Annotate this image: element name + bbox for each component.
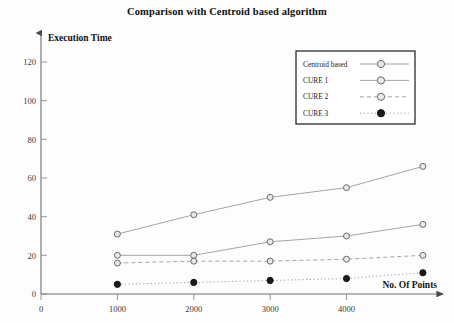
data-point <box>191 258 197 264</box>
x-tick-label: 4000 <box>338 304 355 314</box>
y-tick-label: 60 <box>28 173 37 183</box>
data-point <box>343 275 349 281</box>
data-point <box>191 252 197 258</box>
legend-label: Centroid based <box>303 60 348 69</box>
data-point <box>114 231 120 237</box>
x-tick-label: 0 <box>39 304 43 314</box>
data-point <box>344 185 350 191</box>
data-point <box>191 279 197 285</box>
y-axis-ticks <box>41 62 47 294</box>
x-tick-label: 1000 <box>109 304 126 314</box>
data-point <box>344 256 350 262</box>
data-point <box>344 233 350 239</box>
data-point <box>267 277 273 283</box>
legend-marker <box>377 60 384 67</box>
data-point <box>267 258 273 264</box>
legend-label: CURE 1 <box>303 76 329 85</box>
y-axis-tick-labels: 0 20 40 60 80 100 120 <box>23 57 36 299</box>
series-4 <box>114 270 426 288</box>
data-point <box>420 163 426 169</box>
y-tick-label: 40 <box>28 212 37 222</box>
data-point <box>420 270 426 276</box>
chart-legend: Centroid basedCURE 1CURE 2CURE 3 <box>296 51 415 124</box>
series-1 <box>114 163 426 237</box>
legend-marker <box>377 93 384 100</box>
data-point <box>114 260 120 266</box>
y-tick-label: 80 <box>28 135 37 145</box>
data-point <box>114 281 120 287</box>
data-point <box>420 221 426 227</box>
x-axis-label: No. Of Points <box>382 280 437 290</box>
data-point <box>420 252 426 258</box>
y-tick-label: 20 <box>28 251 37 261</box>
chart-figure: Comparison with Centroid based algorithm… <box>0 0 454 323</box>
x-axis-tick-labels: 0 1000 2000 3000 4000 <box>39 304 355 314</box>
series-2 <box>114 221 426 258</box>
y-tick-label: 100 <box>23 96 36 106</box>
x-tick-label: 2000 <box>185 304 202 314</box>
y-axis-label: Execution Time <box>48 33 112 43</box>
y-tick-label: 120 <box>23 57 36 67</box>
data-point <box>191 212 197 218</box>
data-point <box>114 252 120 258</box>
series-layer <box>114 163 426 287</box>
y-tick-label: 0 <box>32 289 36 299</box>
x-axis-ticks <box>41 294 347 300</box>
legend-marker <box>377 110 384 117</box>
legend-label: CURE 3 <box>303 109 329 118</box>
legend-marker <box>377 77 384 84</box>
data-point <box>267 239 273 245</box>
legend-label: CURE 2 <box>303 92 329 101</box>
chart-plot-area: 0 20 40 60 80 100 120 0 1000 2000 3000 4… <box>0 0 454 323</box>
data-point <box>267 194 273 200</box>
x-tick-label: 3000 <box>262 304 279 314</box>
series-3 <box>114 252 426 266</box>
